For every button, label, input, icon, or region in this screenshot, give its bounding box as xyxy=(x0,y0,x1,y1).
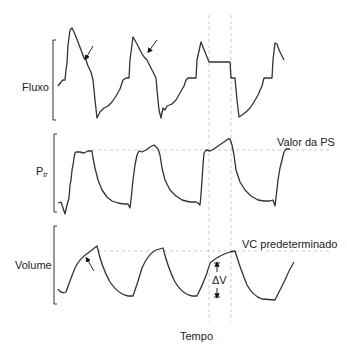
x-axis-label-tempo: Tempo xyxy=(180,331,213,342)
fluxo-panel xyxy=(53,28,284,120)
ptr-bracket xyxy=(54,134,57,212)
delta-v-label: ΔV xyxy=(212,275,227,286)
fluxo-waveform xyxy=(58,28,284,118)
ps-value-label: Valor da PS xyxy=(277,137,335,148)
fluxo-label: Fluxo xyxy=(22,82,49,93)
fluxo-arrow-2 xyxy=(149,40,157,51)
fluxo-bracket xyxy=(53,40,56,120)
volume-bracket xyxy=(54,226,57,304)
ptr-label-subscript: tr xyxy=(43,171,47,178)
fluxo-arrow-1 xyxy=(86,46,93,58)
ventilator-waveform-diagram xyxy=(0,0,347,354)
volume-waveform xyxy=(58,246,294,300)
volume-arrow xyxy=(87,259,94,271)
vc-predetermined-label: VC predeterminado xyxy=(242,239,337,250)
volume-label: Volume xyxy=(15,260,52,271)
ptr-label: Ptr xyxy=(36,166,48,178)
